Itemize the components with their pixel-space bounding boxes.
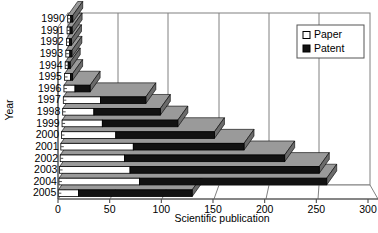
bar-segment-patent bbox=[69, 39, 71, 46]
x-tick-label: 50 bbox=[104, 203, 116, 215]
y-tick-label: 2002 bbox=[35, 152, 59, 164]
y-tick-label: 1998 bbox=[37, 105, 61, 117]
bar-segment-paper bbox=[61, 132, 115, 139]
y-tick-label: 1992 bbox=[40, 35, 64, 47]
y-tick-label: 1999 bbox=[36, 117, 60, 129]
paper-swatch-icon bbox=[303, 32, 310, 39]
bar-segment-patent bbox=[139, 178, 326, 185]
y-tick-label: 1991 bbox=[41, 24, 65, 36]
y-tick-label: 1990 bbox=[41, 12, 65, 24]
bar-segment-paper bbox=[59, 178, 140, 185]
bar-segment-patent bbox=[71, 74, 73, 81]
chart-legend: Paper Patent bbox=[297, 25, 364, 58]
bar-segment-paper bbox=[62, 120, 102, 127]
bar-segment-patent bbox=[68, 62, 70, 69]
x-tick-label: 100 bbox=[153, 203, 171, 215]
bar-segment-paper bbox=[63, 108, 94, 115]
x-tick-label: 250 bbox=[308, 203, 326, 215]
y-tick-label: 1997 bbox=[37, 93, 61, 105]
bar-chart: 050100150200250300 199019911992199319941… bbox=[0, 0, 378, 233]
y-tick-label: 1996 bbox=[38, 82, 62, 94]
y-tick-label: 1995 bbox=[39, 70, 63, 82]
y-axis-title: Year bbox=[3, 99, 15, 121]
y-tick-label: 2004 bbox=[33, 175, 57, 187]
bar-segment-patent bbox=[78, 190, 192, 197]
bar-segment-patent bbox=[71, 15, 73, 22]
y-tick-label: 1994 bbox=[39, 59, 63, 71]
bar-segment-patent bbox=[94, 108, 160, 115]
bar-segment-patent bbox=[102, 120, 177, 127]
bar-segment-paper bbox=[61, 143, 133, 150]
x-tick-label: 0 bbox=[55, 203, 61, 215]
y-tick-label: 2005 bbox=[33, 186, 57, 198]
bar-segment-patent bbox=[75, 85, 90, 92]
y-tick-label: 1993 bbox=[40, 47, 64, 59]
bar-segment-patent bbox=[101, 97, 146, 104]
y-tick-label: 2001 bbox=[35, 140, 59, 152]
legend-label-patent: Patent bbox=[314, 42, 344, 54]
bar-segment-patent bbox=[125, 155, 285, 162]
y-tick-label: 2000 bbox=[36, 128, 60, 140]
chart-container: 050100150200250300 199019911992199319941… bbox=[0, 0, 378, 233]
x-axis-title: Scientific publication bbox=[174, 212, 269, 224]
bar-segment-patent bbox=[116, 132, 215, 139]
bar-segment-patent bbox=[70, 50, 72, 57]
bar-segment-patent bbox=[70, 27, 72, 34]
patent-swatch-icon bbox=[303, 45, 310, 52]
legend-label-paper: Paper bbox=[314, 28, 343, 40]
bar-segment-paper bbox=[60, 155, 124, 162]
x-tick-label: 300 bbox=[359, 203, 377, 215]
bar-segment-patent bbox=[133, 143, 244, 150]
y-tick-label: 2003 bbox=[34, 163, 58, 175]
bar-segment-paper bbox=[58, 190, 78, 197]
bar-segment-paper bbox=[60, 167, 130, 174]
bar-segment-patent bbox=[130, 167, 319, 174]
bar-segment-paper bbox=[63, 97, 100, 104]
